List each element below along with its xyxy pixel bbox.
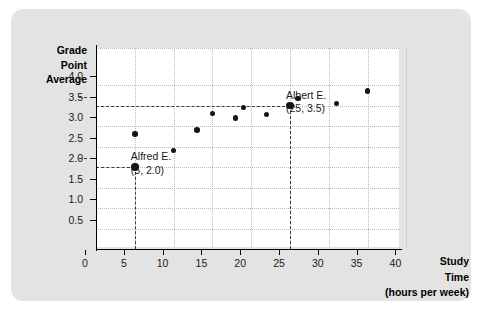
gridline-vertical — [406, 48, 407, 247]
guide-line-stub — [79, 158, 87, 159]
x-axis-tick — [85, 250, 86, 255]
screenshot-root: Grade Point Average Study Time (hours pe… — [0, 0, 482, 309]
y-axis-tick — [90, 76, 96, 77]
plot-area — [96, 48, 399, 247]
point-annotation: Albert E.(25, 3.5) — [286, 89, 326, 116]
y-axis-tick — [90, 199, 96, 200]
gridline-vertical — [212, 48, 213, 247]
point-annotation-name: Alfred E. — [131, 150, 171, 164]
guide-line-horizontal — [96, 106, 290, 107]
x-axis-title-line-2: Time — [341, 270, 469, 286]
data-point — [194, 127, 200, 133]
x-axis-tick — [318, 250, 319, 255]
data-point — [171, 148, 177, 154]
y-axis-tick — [90, 179, 96, 180]
point-annotation-coords: (5, 2.0) — [131, 164, 171, 178]
data-point — [233, 115, 239, 121]
x-axis-tick-label: 25 — [264, 257, 294, 269]
gridline-horizontal — [96, 229, 399, 230]
x-axis-tick-label: 10 — [148, 257, 178, 269]
y-axis-tick-label: 3.0 — [31, 112, 83, 122]
gridline-vertical — [368, 48, 369, 247]
point-annotation-name: Albert E. — [286, 89, 326, 103]
x-axis-tick — [395, 250, 396, 255]
x-axis-tick — [279, 250, 280, 255]
data-point — [210, 111, 216, 117]
y-axis-tick-label: 1.5 — [31, 174, 83, 184]
y-axis-tick — [90, 220, 96, 221]
gridline-horizontal — [96, 126, 399, 127]
x-axis-tick-label: 0 — [70, 257, 100, 269]
point-annotation: Alfred E.(5, 2.0) — [131, 150, 171, 177]
x-axis-tick-label: 5 — [109, 257, 139, 269]
y-axis-tick-label: 1.0 — [31, 194, 83, 204]
x-axis-tick-label: 30 — [303, 257, 333, 269]
guide-line-horizontal — [96, 167, 135, 168]
guide-line-vertical — [290, 106, 291, 250]
gridline-horizontal — [96, 208, 399, 209]
x-axis-tick-label: 20 — [225, 257, 255, 269]
x-axis-tick — [163, 250, 164, 255]
y-axis-tick-label: 2.5 — [31, 133, 83, 143]
y-axis-title-line-1: Grade — [33, 43, 87, 58]
y-axis-tick-label: 4.0 — [31, 71, 83, 81]
x-axis-tick — [357, 250, 358, 255]
y-axis-tick-label: 2.0 — [31, 153, 83, 163]
x-axis-title-line-3: (hours per week) — [341, 285, 469, 301]
data-point — [241, 105, 247, 111]
guide-line-vertical — [135, 167, 136, 249]
x-axis-tick — [240, 250, 241, 255]
x-axis-tick-label: 15 — [186, 257, 216, 269]
x-axis-tick — [124, 250, 125, 255]
gridline-horizontal — [96, 188, 399, 189]
x-axis-tick-label: 40 — [380, 257, 410, 269]
gridline-vertical — [251, 48, 252, 247]
y-axis-tick — [90, 117, 96, 118]
gridline-horizontal — [96, 147, 399, 148]
data-point — [365, 88, 371, 94]
y-axis-tick — [90, 158, 96, 159]
gridline-horizontal — [96, 85, 399, 86]
y-axis-tick-label: 3.5 — [31, 92, 83, 102]
y-axis-tick — [90, 138, 96, 139]
x-axis-tick-label: 35 — [342, 257, 372, 269]
data-point — [132, 131, 138, 137]
gridline-vertical — [329, 48, 330, 247]
point-annotation-coords: (25, 3.5) — [286, 102, 326, 116]
y-axis-line — [96, 45, 97, 251]
chart-card: Grade Point Average Study Time (hours pe… — [11, 9, 471, 301]
guide-line-stub — [79, 97, 87, 98]
y-axis-tick-label: 0.5 — [31, 215, 83, 225]
x-axis-tick — [201, 250, 202, 255]
y-axis-tick — [90, 97, 96, 98]
gridline-horizontal — [96, 48, 399, 49]
data-point — [264, 112, 270, 118]
